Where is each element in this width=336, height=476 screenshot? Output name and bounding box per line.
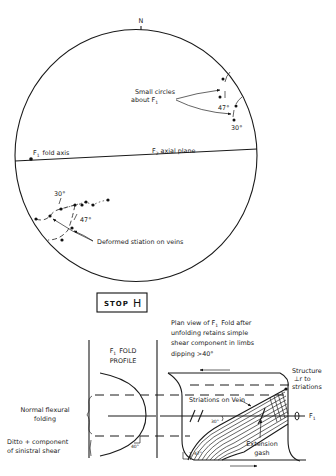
stop-label: STOP [104,300,129,308]
deformed-striation-points [34,198,109,242]
fold-profile-curve [100,373,146,456]
arrow-to-47-circle [176,90,220,99]
fold-diagram: Plan view of F1Fold after unfolding reta… [7,319,322,466]
plan-angle-30-arc [222,416,223,421]
plan-angle-30: 30° [211,419,219,424]
lower-brace [90,440,91,456]
f1-fold-axis-point [29,157,33,161]
profile-angle-mark [134,436,140,443]
normal-flexural-line2: folding [34,415,56,423]
plan-view-caption-line4: dipping >40° [171,350,214,358]
plan-angle-47: 47° [194,451,202,456]
small-circles-label-line1: Small circles [135,88,176,96]
ditto-line1: Ditto + component [7,438,69,446]
structure-label-line2: ⊥r to [294,375,311,383]
profile-caption-line1: F1FOLD [110,347,137,356]
deformed-striation-label: Deformed stiation on veins [97,238,184,246]
arrow-to-lower-striation [74,231,93,241]
ditto-line2: of sinistral shear [7,447,61,455]
plan-view-caption-line1: Plan view of F1Fold after [171,319,252,328]
f1-fold-axis-label: F1fold axis [33,149,70,158]
extension-gash-arrow [260,420,261,438]
stereonet: N F2axial plane F1fold axis Small circle… [15,17,257,282]
stop-h-box: STOP H [97,293,147,312]
plan-corner-mark [183,452,189,459]
normal-flexural-line1: Normal flexural [20,406,69,414]
plan-view-caption-line3: shear component in limbs [171,339,255,347]
angle-30-lower: 30° [54,190,65,198]
profile-caption-line2: PROFILE [110,357,136,365]
profile-angle-label: 40° [131,444,139,449]
structure-label-line3: striations [292,383,322,391]
north-label: N [139,17,144,25]
f2-axial-plane-label: F2axial plane [152,147,196,156]
angle-47-lower: 47° [80,216,91,224]
structural-geology-figure: N F2axial plane F1fold axis Small circle… [0,0,336,476]
extension-gash-label1: Extension [246,440,277,448]
small-circles-label-line2: about F1 [131,96,158,105]
striations-on-vein-label: Striations on Vein [189,396,245,404]
structure-point [284,387,287,390]
f1-axis-label: F1 [309,412,316,421]
angle-47-upper: 47° [218,104,229,112]
angle-30-upper: 30° [231,124,242,132]
plan-view-caption-line2: unfolding retains simple [171,329,248,337]
structure-label-line1: Structure [292,367,322,375]
extension-gash-label2: gash [254,449,269,457]
stop-letter: H [133,297,141,310]
